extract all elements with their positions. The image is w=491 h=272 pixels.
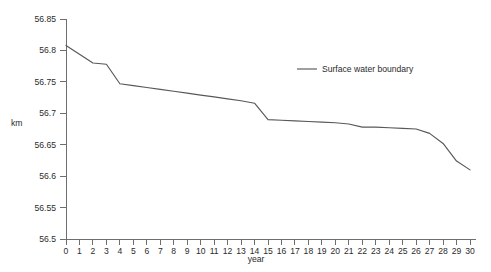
y-axis-ticks <box>60 19 66 239</box>
x-tick-label: 11 <box>210 246 219 256</box>
legend-label-surface-water-boundary: Surface water boundary <box>322 64 414 74</box>
x-tick-label: 6 <box>144 246 149 256</box>
x-tick-label: 12 <box>223 246 233 256</box>
x-tick-label: 26 <box>411 246 421 256</box>
x-tick-label: 17 <box>290 246 300 256</box>
x-tick-label: 27 <box>425 246 435 256</box>
x-axis-title: year <box>248 254 265 264</box>
line-chart: 56.556.5556.656.6556.756.7556.856.85 012… <box>0 0 491 272</box>
figure-container: 56.556.5556.656.6556.756.7556.856.85 012… <box>0 0 491 272</box>
x-tick-label: 3 <box>104 246 109 256</box>
x-tick-label: 20 <box>331 246 341 256</box>
x-tick-label: 16 <box>277 246 287 256</box>
y-axis-title: km <box>11 118 22 128</box>
y-tick-label: 56.85 <box>34 14 56 24</box>
x-tick-label: 19 <box>317 246 327 256</box>
y-tick-label: 56.8 <box>39 45 56 55</box>
x-tick-label: 1 <box>77 246 82 256</box>
x-tick-label: 22 <box>357 246 367 256</box>
chart-legend: Surface water boundary <box>297 64 414 74</box>
x-tick-label: 13 <box>236 246 246 256</box>
x-tick-label: 4 <box>117 246 122 256</box>
x-tick-label: 5 <box>131 246 136 256</box>
y-tick-label: 56.7 <box>39 108 56 118</box>
x-tick-label: 2 <box>91 246 96 256</box>
x-tick-label: 24 <box>384 246 394 256</box>
y-axis-tick-labels: 56.556.5556.656.6556.756.7556.856.85 <box>34 14 56 244</box>
x-tick-label: 0 <box>64 246 69 256</box>
x-tick-label: 15 <box>263 246 273 256</box>
x-tick-label: 29 <box>452 246 462 256</box>
x-tick-label: 25 <box>398 246 408 256</box>
x-tick-label: 23 <box>371 246 381 256</box>
y-tick-label: 56.6 <box>39 171 56 181</box>
y-tick-label: 56.55 <box>34 203 56 213</box>
x-tick-label: 28 <box>438 246 448 256</box>
y-tick-label: 56.5 <box>39 234 56 244</box>
x-tick-label: 21 <box>344 246 354 256</box>
x-tick-label: 18 <box>304 246 314 256</box>
x-tick-label: 30 <box>465 246 475 256</box>
y-tick-label: 56.65 <box>34 140 56 150</box>
x-tick-label: 10 <box>196 246 206 256</box>
x-tick-label: 7 <box>158 246 163 256</box>
x-tick-label: 9 <box>185 246 190 256</box>
x-axis-tick-labels: 0123456789101112131415161718192021222324… <box>64 246 475 256</box>
x-tick-label: 8 <box>171 246 176 256</box>
x-axis-ticks <box>66 239 470 245</box>
y-tick-label: 56.75 <box>34 77 56 87</box>
